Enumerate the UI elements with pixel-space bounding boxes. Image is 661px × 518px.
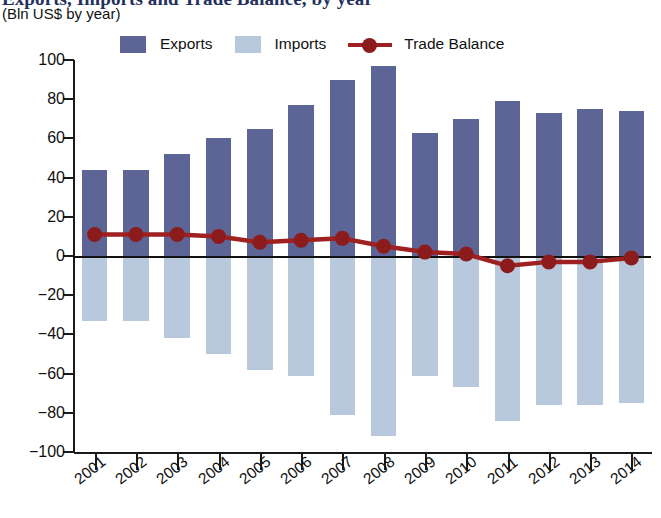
legend-swatch-icon <box>120 36 146 53</box>
y-tick-label: 60 <box>47 129 65 147</box>
x-axis: 2001200220032004200520062007200820092010… <box>74 452 652 518</box>
legend-item-exports[interactable]: Exports <box>120 35 213 53</box>
legend-item-trade-balance[interactable]: Trade Balance <box>348 35 504 53</box>
trade-balance-point-2002 <box>128 227 143 242</box>
trade-balance-point-2010 <box>459 247 474 262</box>
x-tick-label-2006: 2006 <box>277 453 315 488</box>
y-tick-label: −100 <box>29 443 65 461</box>
y-tick-label: −40 <box>38 325 65 343</box>
trade-balance-point-2014 <box>624 250 639 265</box>
trade-balance-point-2003 <box>170 227 185 242</box>
trade-balance-point-2009 <box>417 245 432 260</box>
plot-area: 100806040200−20−40−60−80−100 <box>74 60 652 452</box>
x-tick-label-2002: 2002 <box>112 453 150 488</box>
legend-label: Trade Balance <box>404 35 504 53</box>
legend-swatch-icon <box>235 36 261 53</box>
x-tick-label-2003: 2003 <box>153 453 191 488</box>
y-tick-label: 20 <box>47 208 65 226</box>
legend-line-marker-icon <box>348 36 392 53</box>
x-tick-label-2004: 2004 <box>195 453 233 488</box>
trade-balance-point-2006 <box>294 233 309 248</box>
x-tick-label-2011: 2011 <box>484 453 521 488</box>
chart-subtitle: (Bln US$ by year) <box>2 5 120 22</box>
x-tick-label-2008: 2008 <box>360 453 398 488</box>
legend-label: Exports <box>160 35 213 53</box>
trade-balance-point-2013 <box>583 254 598 269</box>
chart-legend: ExportsImportsTrade Balance <box>120 33 527 55</box>
trade-balance-point-2012 <box>541 254 556 269</box>
trade-balance-line-layer <box>74 60 652 452</box>
y-tick-label: −80 <box>38 404 65 422</box>
trade-balance-point-2005 <box>252 235 267 250</box>
trade-balance-point-2004 <box>211 229 226 244</box>
x-tick-label-2012: 2012 <box>525 453 563 488</box>
trade-balance-point-2011 <box>500 258 515 273</box>
legend-item-imports[interactable]: Imports <box>235 35 327 53</box>
x-tick-label-2014: 2014 <box>607 453 645 488</box>
y-tick-label: −60 <box>38 365 65 383</box>
y-tick-label: 40 <box>47 169 65 187</box>
x-tick-label-2007: 2007 <box>318 453 356 488</box>
x-tick-label-2001: 2001 <box>71 453 109 488</box>
y-tick-label: 100 <box>38 51 65 69</box>
trade-balance-point-2008 <box>376 239 391 254</box>
y-tick-label: 0 <box>56 247 65 265</box>
legend-label: Imports <box>275 35 327 53</box>
trade-balance-point-2007 <box>335 231 350 246</box>
x-axis-line <box>74 452 652 454</box>
chart-figure: Exports, Imports and Trade Balance, by y… <box>0 0 661 518</box>
x-tick-label-2013: 2013 <box>566 453 604 488</box>
trade-balance-point-2001 <box>87 227 102 242</box>
y-tick-label: 80 <box>47 90 65 108</box>
x-tick-label-2009: 2009 <box>401 453 439 488</box>
x-tick-label-2005: 2005 <box>236 453 274 488</box>
y-tick-label: −20 <box>38 286 65 304</box>
legend-line-dot <box>362 38 377 53</box>
x-tick-label-2010: 2010 <box>442 453 480 488</box>
